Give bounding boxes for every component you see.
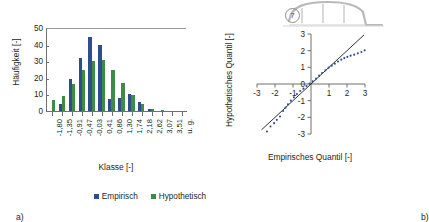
qq-data-point	[357, 52, 359, 54]
histogram-plot-area: 01020304050	[46, 28, 186, 112]
histogram-y-tick-label: 0	[13, 108, 46, 116]
histogram-x-tick-label: u. g.	[186, 119, 194, 134]
histogram-bar-group	[47, 28, 57, 111]
qq-data-point	[350, 55, 352, 57]
histogram-bar	[131, 95, 134, 111]
histogram-x-tick-label-cell: 2,18	[137, 118, 147, 160]
qq-data-point	[276, 119, 278, 121]
histogram-bar-group	[166, 28, 176, 111]
histogram-bar	[151, 109, 154, 111]
legend-label: Hypothetisch	[159, 192, 206, 201]
legend-label: Empirisch	[102, 192, 138, 201]
histogram-bar-group	[87, 28, 97, 111]
qq-data-point	[282, 110, 284, 112]
qq-data-point	[266, 130, 268, 132]
qq-plot-panel: Hypothetisches Quantil [-] -3-2-1123-3-2…	[205, 22, 384, 197]
qq-y-axis-title: Hypothetisches Quantil [-]	[225, 28, 237, 132]
histogram-x-tick-label-cell: 3,51	[167, 118, 177, 160]
histogram-bar-group	[116, 28, 126, 111]
histogram-bar	[111, 70, 114, 112]
qq-y-tick-label: 0	[300, 80, 305, 89]
histogram-bar	[102, 60, 105, 111]
qq-data-point	[309, 83, 311, 85]
qq-x-tick-label: -2	[271, 89, 279, 98]
qq-y-tick-label: 1	[300, 63, 305, 72]
histogram-panel: Häufigkeit [-] 01020304050 -1,80-1,35-0,…	[0, 22, 205, 197]
qq-data-point	[299, 90, 301, 92]
qq-data-point	[343, 57, 345, 59]
qq-data-point	[273, 122, 275, 124]
bridge-number-badge: 7	[285, 8, 300, 23]
histogram-x-tick-label-cell: 0,41	[97, 118, 107, 160]
histogram-x-tick-label-cell: -0,03	[87, 118, 97, 160]
qq-y-tick-label: -3	[298, 130, 306, 139]
qq-data-point	[279, 115, 281, 117]
histogram-x-tick-label-cell: 0,86	[107, 118, 117, 160]
histogram-bar	[62, 96, 65, 111]
histogram-bar	[82, 70, 85, 111]
legend-item: Hypothetisch	[151, 192, 206, 201]
histogram-x-tick-label-cell: 1,74	[127, 118, 137, 160]
histogram-x-tick-labels: -1,80-1,35-0,91-0,47-0,030,410,861,301,7…	[47, 118, 187, 160]
histogram-bar-group	[156, 28, 166, 111]
qq-data-point	[353, 54, 355, 56]
histogram-bar-group	[107, 28, 117, 111]
histogram-x-tick-label-cell: -1,35	[57, 118, 67, 160]
histogram-x-tick-label-cell: -0,47	[77, 118, 87, 160]
histogram-bars	[47, 28, 186, 111]
qq-data-point	[296, 93, 298, 95]
histogram-y-tick-label: 30	[13, 58, 46, 66]
histogram-x-tick-label-cell: 3,07	[157, 118, 167, 160]
qq-plot-svg: -3-2-1123-3-2-10123	[247, 28, 375, 140]
qq-x-tick-label: 2	[345, 89, 350, 98]
qq-data-point	[324, 69, 326, 71]
histogram-bar	[72, 84, 75, 111]
histogram-x-tick-label-cell: 1,30	[117, 118, 127, 160]
qq-y-tick-label: 2	[300, 47, 305, 56]
histogram-y-tick-label: 10	[13, 91, 46, 99]
qq-data-point	[337, 60, 339, 62]
qq-x-tick-label: -3	[253, 89, 261, 98]
qq-data-point	[269, 125, 271, 127]
histogram-bar-group	[67, 28, 77, 111]
histogram-x-tick-label-cell: -1,80	[47, 118, 57, 160]
qq-x-tick-label: 3	[363, 89, 368, 98]
histogram-bar-group	[57, 28, 67, 111]
qq-plot-area: -3-2-1123-3-2-10123	[247, 28, 375, 140]
qq-data-point	[331, 65, 333, 67]
qq-y-tick-label: 3	[300, 30, 305, 39]
qq-y-tick-label: -1	[298, 97, 306, 106]
histogram-bar	[52, 100, 55, 111]
qq-data-point	[284, 107, 286, 109]
qq-x-tick-label: 1	[327, 89, 332, 98]
qq-data-point	[290, 100, 292, 102]
histogram-bar	[141, 104, 144, 111]
qq-data-point	[328, 67, 330, 69]
histogram-bar	[92, 61, 95, 111]
qq-data-point	[293, 96, 295, 98]
caption-b: b)	[421, 212, 429, 222]
histogram-bar	[161, 110, 164, 111]
qq-data-point	[302, 88, 304, 90]
qq-data-point	[318, 75, 320, 77]
qq-y-tick-label: -2	[298, 113, 306, 122]
qq-data-point	[315, 78, 317, 80]
caption-a: a)	[16, 212, 24, 222]
histogram-bar-group	[146, 28, 156, 111]
qq-data-point	[321, 72, 323, 74]
qq-data-point	[305, 85, 307, 87]
qq-data-point	[312, 80, 314, 82]
qq-data-point	[346, 56, 348, 58]
histogram-x-tick-label-cell: u. g.	[177, 118, 187, 160]
histogram-bar-group	[136, 28, 146, 111]
legend-swatch	[94, 194, 99, 199]
histogram-bar-group	[97, 28, 107, 111]
qq-data-point	[334, 63, 336, 65]
histogram-bar	[121, 83, 124, 111]
histogram-x-tick-label-cell: -0,91	[67, 118, 77, 160]
qq-data-point	[364, 49, 366, 51]
histogram-bar-group	[176, 28, 186, 111]
qq-data-point	[287, 103, 289, 105]
legend-item: Empirisch	[94, 192, 138, 201]
